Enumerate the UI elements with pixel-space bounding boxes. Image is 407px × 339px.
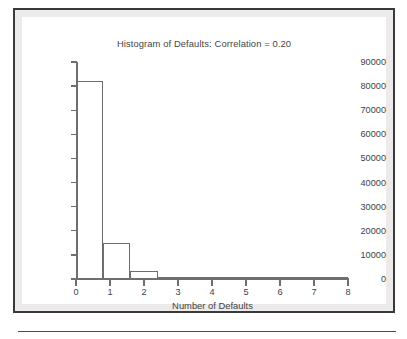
- x-axis-tick: [347, 280, 348, 286]
- page-divider-rule: [18, 331, 396, 332]
- x-axis-tick-label: 6: [268, 287, 292, 297]
- x-axis-tick-label: 5: [234, 287, 258, 297]
- x-axis-tick-label: 4: [200, 287, 224, 297]
- y-axis-tick-label: 70000: [340, 105, 386, 115]
- histogram-bar: [266, 277, 293, 279]
- x-axis-tick: [211, 280, 212, 286]
- y-axis-tick: [71, 61, 77, 62]
- figure-page: Histogram of Defaults: Correlation = 0.2…: [0, 0, 407, 339]
- x-axis-label: Number of Defaults: [76, 300, 349, 311]
- y-axis-tick-label: 50000: [340, 153, 386, 163]
- x-axis-tick: [279, 280, 280, 286]
- histogram-bar: [321, 277, 348, 279]
- x-axis-tick-label: 3: [166, 287, 190, 297]
- x-axis-tick: [109, 280, 110, 286]
- y-axis-tick-label: 20000: [340, 226, 386, 236]
- figure-inner: Histogram of Defaults: Correlation = 0.2…: [22, 17, 386, 304]
- x-axis-tick-label: 8: [336, 287, 360, 297]
- y-axis-tick-label: 60000: [340, 129, 386, 139]
- y-axis-tick-label: 80000: [340, 81, 386, 91]
- y-axis-tick-label: 90000: [340, 57, 386, 67]
- histogram-bar: [158, 277, 185, 279]
- histogram-bar: [294, 277, 321, 279]
- x-axis-tick-label: 0: [64, 287, 88, 297]
- histogram-bar: [103, 243, 130, 279]
- x-axis-tick-label: 7: [302, 287, 326, 297]
- y-axis-tick-label: 10000: [340, 250, 386, 260]
- histogram-bar: [239, 277, 266, 279]
- y-axis-tick-label: 30000: [340, 202, 386, 212]
- x-axis-tick-label: 1: [98, 287, 122, 297]
- x-axis-tick: [177, 280, 178, 286]
- histogram-bar: [76, 81, 103, 279]
- x-axis-tick-label: 2: [132, 287, 156, 297]
- x-axis-tick: [245, 280, 246, 286]
- histogram-bar: [130, 271, 157, 279]
- histogram-bar: [185, 277, 212, 279]
- x-axis-tick: [313, 280, 314, 286]
- histogram-bar: [212, 277, 239, 279]
- y-axis-tick-label: 40000: [340, 178, 386, 188]
- histogram-plot-area: 0100002000030000400005000060000700008000…: [22, 17, 386, 304]
- x-axis-tick: [75, 280, 76, 286]
- figure-frame: Histogram of Defaults: Correlation = 0.2…: [13, 8, 395, 313]
- x-axis-tick: [143, 280, 144, 286]
